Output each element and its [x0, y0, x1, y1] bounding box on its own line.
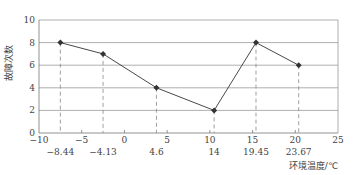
point-x-label: −4.13	[89, 147, 117, 157]
series	[57, 40, 301, 114]
line-chart: −10−50510152025 0246810 −8.44−4.134.6141…	[0, 0, 359, 175]
y-tick-label: 4	[29, 83, 35, 93]
y-tick-label: 10	[24, 15, 36, 25]
y-tick-label: 8	[29, 38, 35, 48]
grid	[39, 20, 338, 110]
y-axis-label: 故障次数	[3, 45, 14, 81]
point-x-label: 23.67	[286, 147, 312, 157]
x-axis-label: 环境温度/℃	[289, 160, 338, 171]
point-x-label: −8.44	[47, 147, 75, 157]
x-tick-label: 20	[290, 135, 302, 145]
data-point-marker	[211, 107, 217, 113]
x-tick-label: −5	[75, 135, 89, 145]
x-tick-label: 10	[204, 135, 216, 145]
y-tick-label: 0	[29, 128, 35, 138]
y-tick-label: 2	[29, 105, 35, 115]
data-point-marker	[57, 40, 63, 46]
point-labels: −8.44−4.134.61419.4523.67	[47, 147, 312, 157]
point-x-label: 4.6	[149, 147, 164, 157]
data-point-marker	[100, 51, 106, 57]
y-tick-label: 6	[29, 60, 35, 70]
data-point-marker	[296, 62, 302, 68]
axes	[39, 20, 338, 133]
x-tick-label: 0	[122, 135, 128, 145]
y-ticks: 0246810	[24, 15, 36, 138]
series-line	[60, 43, 298, 111]
point-x-label: 14	[208, 147, 220, 157]
x-tick-label: 5	[164, 135, 170, 145]
data-point-marker	[153, 85, 159, 91]
x-ticks: −10−50510152025	[30, 130, 344, 145]
x-tick-label: 15	[247, 135, 259, 145]
data-point-marker	[253, 40, 259, 46]
point-x-label: 19.45	[243, 147, 269, 157]
x-tick-label: 25	[332, 135, 344, 145]
